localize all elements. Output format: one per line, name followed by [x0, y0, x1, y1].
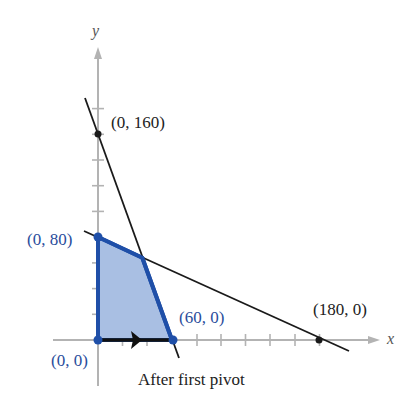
- label-0-0: (0, 0): [51, 351, 88, 370]
- label-0-80: (0, 80): [27, 230, 72, 249]
- point-180-0: [316, 337, 323, 344]
- x-axis-label: x: [386, 330, 394, 347]
- y-axis-label: y: [90, 22, 100, 40]
- point-0-80: [94, 233, 103, 242]
- label-0-160: (0, 160): [111, 113, 165, 132]
- chart-canvas: y x (0, 160) (180, 0) (0, 80) (60, 0) (0…: [0, 0, 410, 417]
- caption: After first pivot: [138, 370, 245, 389]
- label-60-0: (60, 0): [179, 308, 224, 327]
- label-180-0: (180, 0): [313, 300, 367, 319]
- y-axis-arrow-icon: [94, 47, 102, 59]
- point-0-0: [94, 336, 103, 345]
- point-60-0: [169, 336, 178, 345]
- x-axis-arrow-icon: [368, 336, 380, 344]
- point-0-160: [95, 131, 102, 138]
